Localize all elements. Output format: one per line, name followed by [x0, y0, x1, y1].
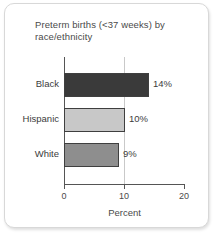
chart-title-line-2: race/ethnicity	[35, 31, 92, 42]
x-axis-label: Percent	[64, 207, 185, 218]
x-tick-10	[124, 185, 125, 189]
x-tick-20	[184, 185, 185, 189]
chart-card: Preterm births (<37 weeks) by race/ethni…	[4, 3, 209, 228]
chart-title: Preterm births (<37 weeks) by race/ethni…	[35, 19, 195, 43]
bar-hispanic	[64, 108, 125, 132]
category-label-hispanic: Hispanic	[23, 113, 59, 124]
category-label-white: White	[35, 148, 59, 159]
chart-title-line-1: Preterm births (<37 weeks) by	[35, 19, 165, 30]
x-tick-label-10: 10	[109, 191, 139, 201]
x-tick-label-20: 20	[169, 191, 199, 201]
plot-area: Black 14% Hispanic 10% White 9% 0 10 20 …	[64, 57, 185, 184]
value-label-hispanic: 10%	[129, 113, 148, 124]
value-label-white: 9%	[123, 148, 137, 159]
x-tick-label-0: 0	[49, 191, 79, 201]
value-label-black: 14%	[153, 78, 172, 89]
bar-black	[64, 73, 149, 97]
x-tick-0	[64, 185, 65, 189]
category-label-black: Black	[36, 78, 59, 89]
bar-white	[64, 143, 119, 167]
